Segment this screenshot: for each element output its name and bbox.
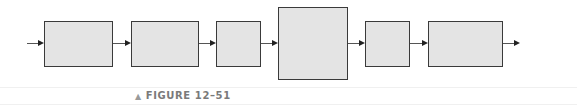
block-4 [278,7,348,80]
block-6 [428,21,503,67]
block-5 [365,21,410,67]
block-2 [131,21,199,67]
arrowhead-icon [514,40,520,46]
block-3 [216,21,261,67]
figure-caption-text: FIGURE 12–51 [146,90,231,101]
figure-caption: ▲FIGURE 12–51 [135,90,231,101]
rule-bottom [0,104,577,105]
rule-top [0,87,577,88]
triangle-marker-icon: ▲ [135,92,142,101]
block-1 [44,21,113,67]
